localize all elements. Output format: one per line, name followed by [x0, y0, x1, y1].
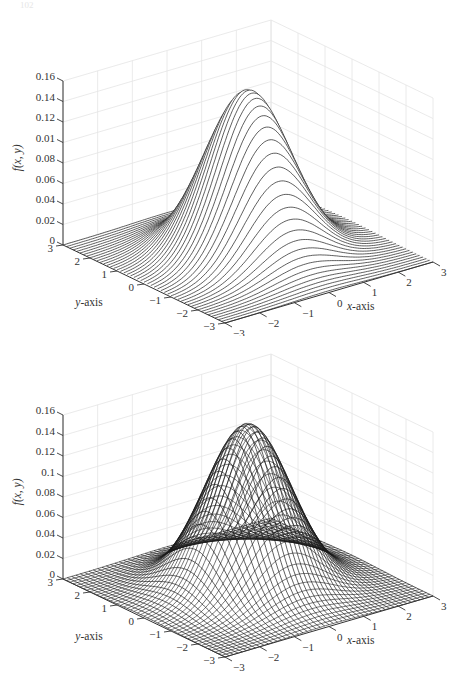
z-tick-label: 0.16: [36, 404, 56, 416]
z-tick-label: 0.08: [36, 152, 56, 164]
y-tick-label: −1: [149, 294, 161, 306]
x-tick-label: 3: [441, 600, 447, 612]
y-tick-label: 0: [129, 615, 135, 627]
y-tick-label: 1: [102, 268, 108, 280]
z-tick-label: 0.04: [36, 193, 56, 205]
z-tick-label: 0.01: [36, 132, 55, 144]
x-axis-label: x-axis: [346, 300, 375, 312]
y-tick-label: 0: [129, 281, 135, 293]
y-tick-label: 1: [102, 602, 108, 614]
z-tick-label: 0.02: [36, 214, 55, 226]
z-tick-label: 0.12: [36, 445, 55, 457]
surface-mesh: [63, 90, 433, 323]
y-axis-label: y-axis: [74, 296, 103, 309]
z-tick-label: 0.08: [36, 486, 56, 498]
z-axis-label: f(x, y): [11, 478, 24, 505]
x-tick-label: −3: [233, 661, 245, 673]
y-tick-label: 3: [48, 242, 54, 254]
surface-mesh: [63, 424, 433, 657]
z-tick-label: 0.14: [36, 425, 56, 437]
x-tick-label: 2: [406, 276, 412, 288]
x-axis-label: x-axis: [346, 634, 375, 646]
z-tick-label: 0.02: [36, 548, 55, 560]
x-tick-label: −2: [268, 651, 280, 663]
x-tick-label: 2: [406, 610, 412, 622]
z-tick-label: 0.04: [36, 527, 56, 539]
y-tick-label: −3: [203, 654, 215, 666]
surface-plot-bottom: 00.020.040.060.080.10.120.140.16−3−2−101…: [0, 328, 472, 673]
y-axis-label: y-axis: [74, 630, 103, 643]
z-tick-label: 0.16: [36, 70, 56, 82]
x-tick-label: −1: [302, 641, 314, 653]
x-tick-label: 1: [372, 286, 378, 298]
x-tick-label: 0: [337, 631, 343, 643]
z-axis-label: f(x, y): [11, 144, 24, 171]
y-tick-label: −2: [176, 307, 188, 319]
z-tick-label: 0.06: [36, 173, 56, 185]
x-tick-label: 1: [372, 620, 378, 632]
y-tick-label: −2: [176, 641, 188, 653]
y-tick-label: 3: [48, 576, 54, 588]
z-tick-label: 0.12: [36, 111, 55, 123]
y-tick-label: 2: [75, 589, 81, 601]
y-tick-label: 2: [75, 255, 81, 267]
x-tick-label: 3: [441, 266, 447, 278]
z-tick-label: 0.06: [36, 507, 56, 519]
surface-plot-top: 00.020.040.060.080.010.120.140.16−3−2−10…: [0, 0, 472, 336]
x-tick-label: −1: [302, 307, 314, 319]
y-tick-label: −1: [149, 628, 161, 640]
x-tick-label: 0: [337, 297, 343, 309]
z-tick-label: 0.14: [36, 91, 56, 103]
z-tick-label: 0.1: [41, 466, 55, 478]
